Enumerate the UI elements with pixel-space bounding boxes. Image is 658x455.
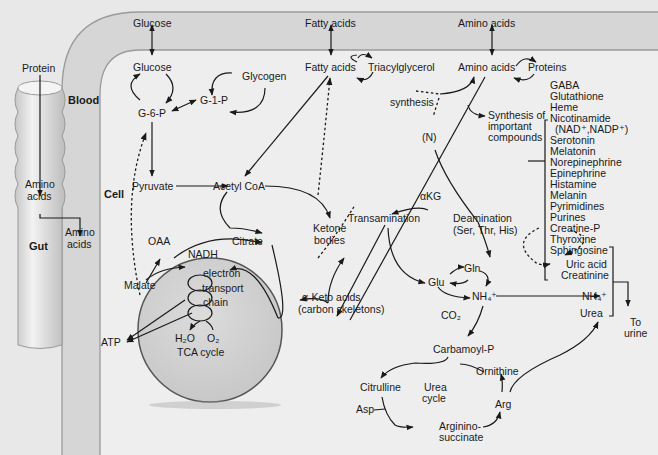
glycogen: Glycogen <box>242 70 287 82</box>
triacylglycerol: Triacylglycerol <box>368 61 435 73</box>
ornithine: Ornithine <box>476 365 519 377</box>
metabolism-diagram: Blood Cell Gut Protein Amino acids Amino… <box>0 0 658 455</box>
g6p: G-6-P <box>138 107 166 119</box>
blood-glucose: Glucose <box>133 17 172 29</box>
blood-fatty-acids: Fatty acids <box>305 17 356 29</box>
argsucc-2: succinate <box>439 431 484 443</box>
gut-amino-1: Amino <box>25 178 55 190</box>
proteins: Proteins <box>528 61 567 73</box>
to-urine-2: urine <box>624 327 648 339</box>
keto-2: (carbon skeletons) <box>298 303 384 315</box>
synthesis-label: synthesis <box>390 96 434 108</box>
g1p: G-1-P <box>200 94 228 106</box>
asp: Asp <box>356 403 374 415</box>
citrate: Citrate <box>232 235 263 247</box>
akg: αKG <box>420 190 441 202</box>
cell-glucose: Glucose <box>133 61 172 73</box>
deamination-2: (Ser, Thr, His) <box>453 224 518 236</box>
exported-amino-2: acids <box>67 238 92 250</box>
ketone-2: bodies <box>314 234 345 246</box>
tca-cycle: TCA cycle <box>177 346 224 358</box>
compound-item: Sphingosine <box>550 244 608 256</box>
blood-amino-acids: Amino acids <box>458 17 515 29</box>
nitrogen-label: (N) <box>422 131 437 143</box>
citrulline: Citrulline <box>360 381 401 393</box>
urea: Urea <box>580 307 603 319</box>
malate: Malate <box>124 279 156 291</box>
cell-amino-acids: Amino acids <box>458 61 515 73</box>
etc-1: electron <box>203 267 241 279</box>
ketone-1: Ketone <box>313 222 346 234</box>
h2o: H₂O <box>175 332 195 344</box>
nh4-excreted: NH₄⁺ <box>582 290 607 302</box>
etc-2: transport <box>202 282 244 294</box>
transamination: Transamination <box>348 212 420 224</box>
carbamoyl-p: Carbamoyl-P <box>433 343 494 355</box>
o2: O₂ <box>207 332 219 344</box>
cell-label: Cell <box>104 188 124 200</box>
creatinine: Creatinine <box>561 269 609 281</box>
synth-3: compounds <box>488 131 542 143</box>
pyruvate: Pyruvate <box>132 180 174 192</box>
arg: Arg <box>495 398 512 410</box>
cell-fatty-acids: Fatty acids <box>305 61 356 73</box>
gln: Gln <box>464 262 481 274</box>
gut-amino-2: acids <box>27 190 52 202</box>
oaa: OAA <box>148 235 170 247</box>
etc-3: chain <box>203 296 228 308</box>
keto-1: α-Keto acids <box>302 291 361 303</box>
gut-protein: Protein <box>22 62 55 74</box>
deamination-1: Deamination <box>453 212 512 224</box>
nh4-cell: NH₄⁺ <box>472 290 497 302</box>
co2: CO₂ <box>441 309 461 321</box>
acetyl-coa: Acetyl CoA <box>213 180 265 192</box>
urea-cycle-2: cycle <box>422 392 446 404</box>
atp: ATP <box>101 336 121 348</box>
nadh: NADH <box>188 248 218 260</box>
glu: Glu <box>428 276 445 288</box>
exported-amino-1: Amino <box>65 226 95 238</box>
gut-label: Gut <box>29 240 48 252</box>
blood-label: Blood <box>68 94 99 106</box>
